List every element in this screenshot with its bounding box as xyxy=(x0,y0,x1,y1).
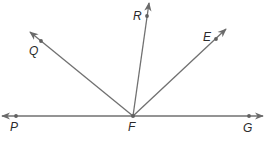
label-q: Q xyxy=(29,44,38,58)
ray-fe xyxy=(133,29,226,116)
label-f: F xyxy=(128,120,136,134)
ray-fq xyxy=(30,32,133,116)
point-q xyxy=(39,39,43,43)
point-p xyxy=(14,114,18,118)
point-r xyxy=(145,14,149,18)
label-e: E xyxy=(203,30,212,44)
point-e xyxy=(214,37,218,41)
label-g: G xyxy=(243,121,252,135)
point-f xyxy=(131,114,135,118)
label-r: R xyxy=(133,9,142,23)
label-p: P xyxy=(10,120,18,134)
geometry-diagram: P F G Q R E xyxy=(0,0,267,144)
point-g xyxy=(247,114,251,118)
